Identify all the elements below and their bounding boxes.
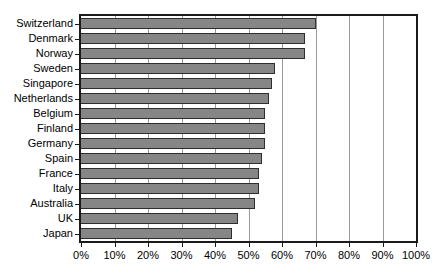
y-axis-label: France [0,167,73,180]
bar-singapore [81,78,272,89]
y-axis-label: Spain [0,152,73,165]
bar-row [81,166,416,181]
bar-finland [81,123,265,134]
y-axis-label: Australia [0,197,73,210]
y-axis-tick [75,204,79,205]
y-axis-tick [75,189,79,190]
bar-row [81,46,416,61]
y-axis-label: Sweden [0,62,73,75]
bar-row [81,211,416,226]
x-axis-label: 30% [170,249,192,261]
bar-row [81,151,416,166]
bar-norway [81,48,305,59]
x-axis-tick [416,243,417,247]
y-axis-tick [75,54,79,55]
x-axis-label: 60% [271,249,293,261]
bar-spain [81,153,262,164]
bar-chart: SwitzerlandDenmarkNorwaySwedenSingaporeN… [0,0,444,275]
y-axis-tick [75,114,79,115]
bar-netherlands [81,93,269,104]
y-axis-tick [75,159,79,160]
x-axis-tick [215,243,216,247]
x-axis-tick [349,243,350,247]
x-axis-tick [316,243,317,247]
y-axis-tick [75,174,79,175]
bar-australia [81,198,255,209]
bar-germany [81,138,265,149]
bar-belgium [81,108,265,119]
bar-denmark [81,33,305,44]
y-axis-tick [75,234,79,235]
y-axis-label: Netherlands [0,92,73,105]
y-axis-label: Belgium [0,107,73,120]
bar-france [81,168,259,179]
bar-row [81,31,416,46]
y-axis-tick [75,69,79,70]
y-axis-label: Singapore [0,77,73,90]
y-axis-label: Italy [0,182,73,195]
y-axis-label: Norway [0,47,73,60]
x-axis-label: 50% [237,249,259,261]
x-axis-label: 20% [137,249,159,261]
x-axis-tick [115,243,116,247]
bar-uk [81,213,238,224]
x-axis-tick [81,243,82,247]
x-axis-label: 40% [204,249,226,261]
y-axis-label: Japan [0,227,73,240]
bar-row [81,181,416,196]
x-axis-tick [148,243,149,247]
x-axis-tick [282,243,283,247]
y-axis-tick [75,219,79,220]
x-axis-label: 80% [338,249,360,261]
bar-italy [81,183,259,194]
x-axis-label: 10% [103,249,125,261]
y-axis-tick [75,144,79,145]
bar-row [81,16,416,31]
bar-row [81,196,416,211]
x-axis-tick [249,243,250,247]
y-axis-label: Germany [0,137,73,150]
bars-container [81,16,416,241]
y-axis-label: UK [0,212,73,225]
y-axis-tick [75,84,79,85]
y-axis-tick [75,39,79,40]
bar-japan [81,228,232,239]
x-axis-label: 70% [304,249,326,261]
bar-row [81,91,416,106]
bar-row [81,136,416,151]
y-axis-label: Denmark [0,32,73,45]
bar-sweden [81,63,275,74]
bar-row [81,76,416,91]
x-axis-tick [383,243,384,247]
bar-row [81,121,416,136]
y-axis-tick [75,129,79,130]
y-axis-tick [75,99,79,100]
plot-area [79,14,418,243]
y-axis-tick [75,24,79,25]
bar-row [81,106,416,121]
bar-row [81,226,416,241]
y-axis-label: Finland [0,122,73,135]
x-axis-label: 90% [371,249,393,261]
x-axis-tick [182,243,183,247]
bar-switzerland [81,18,316,29]
y-axis-label: Switzerland [0,17,73,30]
x-axis-label: 0% [73,249,89,261]
bar-row [81,61,416,76]
x-axis-label: 100% [402,249,430,261]
